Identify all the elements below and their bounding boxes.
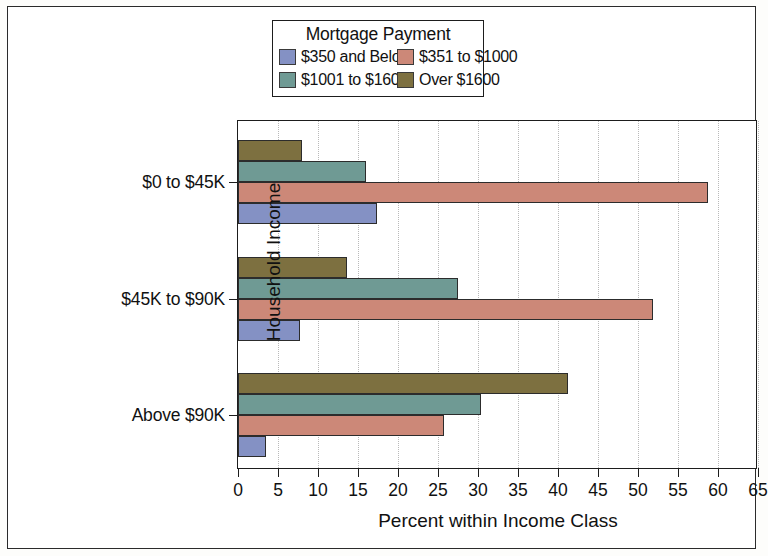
legend-entry-350-and-below[interactable]: $350 and Below <box>279 48 397 66</box>
x-axis-tick <box>678 468 679 477</box>
x-axis-tick <box>598 468 599 477</box>
x-axis-tick-label: 15 <box>348 480 367 501</box>
x-axis-tick <box>438 468 439 477</box>
x-axis-tick-label: 10 <box>308 480 327 501</box>
bar[interactable] <box>238 182 708 203</box>
x-axis-tick-label: 20 <box>388 480 407 501</box>
gridline <box>758 121 760 468</box>
x-axis-tick-label: 60 <box>708 480 727 501</box>
plot-area: $0 to $45K$45K to $90KAbove $90K 0510152… <box>237 120 757 469</box>
x-axis-tick-label: 35 <box>508 480 527 501</box>
bar[interactable] <box>238 436 266 457</box>
legend-entry-1001-to-1600[interactable]: $1001 to $1600 <box>279 71 397 89</box>
x-axis-tick <box>478 468 479 477</box>
y-axis-title: Household Income <box>263 132 285 392</box>
bar[interactable] <box>238 394 481 415</box>
legend-row: $1001 to $1600 Over $1600 <box>279 68 477 91</box>
x-axis-tick-label: 45 <box>588 480 607 501</box>
x-axis-tick <box>558 468 559 477</box>
x-axis-tick-label: 5 <box>273 480 283 501</box>
x-axis-tick <box>518 468 519 477</box>
x-axis-tick-label: 0 <box>233 480 243 501</box>
y-axis-category-label: $45K to $90K <box>121 288 225 309</box>
legend-entry-label: $351 to $1000 <box>419 48 517 66</box>
x-axis-tick <box>318 468 319 477</box>
bars-layer <box>238 121 756 468</box>
x-axis-title: Percent within Income Class <box>238 510 758 532</box>
y-axis-category-label: Above $90K <box>132 404 225 425</box>
legend-entry-351-to-1000[interactable]: $351 to $1000 <box>397 48 517 66</box>
legend-entry-label: $1001 to $1600 <box>301 71 408 89</box>
y-axis-tick <box>229 415 238 416</box>
x-axis-tick-label: 25 <box>428 480 447 501</box>
y-axis-tick <box>229 299 238 300</box>
x-axis-tick-label: 30 <box>468 480 487 501</box>
bar[interactable] <box>238 373 568 394</box>
x-axis-tick <box>398 468 399 477</box>
x-axis-tick <box>278 468 279 477</box>
chart-legend: Mortgage Payment $350 and Below $351 to … <box>272 20 484 97</box>
legend-swatch-icon <box>397 72 414 88</box>
legend-swatch-icon <box>397 49 414 65</box>
figure-frame: Mortgage Payment $350 and Below $351 to … <box>7 6 756 549</box>
x-axis-tick-label: 50 <box>628 480 647 501</box>
x-axis-tick <box>358 468 359 477</box>
legend-entry-label: Over $1600 <box>419 71 500 89</box>
legend-row: $350 and Below $351 to $1000 <box>279 45 477 68</box>
legend-swatch-icon <box>279 49 296 65</box>
x-axis-tick <box>758 468 759 477</box>
x-axis-tick-label: 55 <box>668 480 687 501</box>
legend-entry-label: $350 and Below <box>301 48 412 66</box>
x-axis-tick <box>638 468 639 477</box>
bar[interactable] <box>238 161 366 182</box>
bar[interactable] <box>238 257 347 278</box>
x-axis-tick <box>238 468 239 477</box>
bar[interactable] <box>238 415 444 436</box>
legend-entry-over-1600[interactable]: Over $1600 <box>397 71 500 89</box>
y-axis-tick <box>229 182 238 183</box>
legend-swatch-icon <box>279 72 296 88</box>
bar[interactable] <box>238 203 377 224</box>
bar[interactable] <box>238 299 653 320</box>
x-axis-tick <box>718 468 719 477</box>
legend-title: Mortgage Payment <box>279 24 477 45</box>
x-axis-tick-label: 40 <box>548 480 567 501</box>
x-axis-tick-label: 65 <box>748 480 767 501</box>
y-axis-category-label: $0 to $45K <box>142 172 225 193</box>
